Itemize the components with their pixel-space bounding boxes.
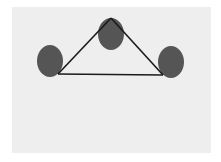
node-top xyxy=(98,18,124,50)
edge-left-right xyxy=(58,74,163,75)
triangle-diagram xyxy=(0,0,221,162)
